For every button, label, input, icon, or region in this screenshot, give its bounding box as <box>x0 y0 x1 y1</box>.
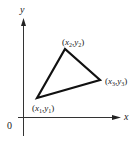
vertex-label-3: (x3,y3) <box>105 76 127 87</box>
coordinate-diagram: y x 0 (x2,y2) (x3,y3) (x1,y1) <box>0 0 138 146</box>
vertex-label-2: (x2,y2) <box>62 37 84 48</box>
vertex-label-1: (x1,y1) <box>32 103 54 114</box>
x-axis-label: x <box>123 111 129 122</box>
x-axis-arrow-icon <box>112 115 121 120</box>
triangle <box>37 49 100 98</box>
origin-label: 0 <box>7 120 12 131</box>
y-axis-arrow-icon <box>21 18 26 26</box>
y-axis-label: y <box>19 4 25 15</box>
